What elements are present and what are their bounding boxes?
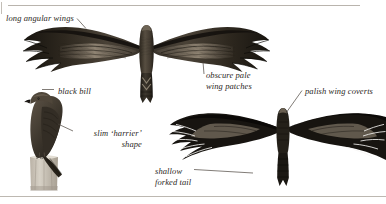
perched-bird-eye [37, 98, 39, 100]
upper-bird-tail [140, 73, 153, 103]
perched-bird-wing [41, 107, 60, 157]
illustration-plate: long angular wings black bill slim ‘harr… [0, 0, 386, 204]
label-black-bill: black bill [58, 86, 91, 97]
label-palish-wing-coverts: palish wing coverts [305, 86, 373, 97]
leader-palish-wing-coverts [286, 91, 302, 114]
upper-bird-left-wing [23, 27, 142, 72]
label-obscure-pale-wing-patches: obscure pale wing patches [206, 70, 252, 91]
figure-perched-bird [25, 92, 63, 191]
label-shallow-forked-tail: shallow forked tail [155, 166, 191, 187]
upper-bird-right-wing [151, 27, 270, 72]
leader-obscure-pale-wing-patches [203, 62, 204, 74]
label-long-angular-wings: long angular wings [6, 13, 74, 24]
leader-slim-harrier-shape [58, 124, 73, 131]
plate-artwork [0, 0, 386, 204]
lower-bird-right-wing [288, 113, 386, 160]
lower-bird-body [276, 108, 289, 153]
lower-bird-tail [277, 153, 289, 186]
upper-bird-body [139, 25, 154, 73]
lower-bird-left-wing [169, 113, 280, 160]
leader-long-angular-wings [77, 19, 86, 29]
label-slim-harrier-shape: slim ‘harrier’ shape [76, 128, 142, 149]
leader-shallow-forked-tail [194, 170, 253, 174]
perch-post [30, 155, 58, 191]
figure-lower-bird [169, 108, 386, 186]
